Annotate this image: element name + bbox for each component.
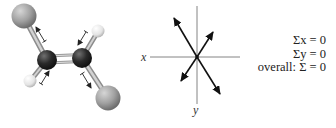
vector-diagram: x y: [140, 6, 240, 117]
atom-hydrogen-top-right: [92, 25, 105, 38]
equation-summary: Σx = 0 Σy = 0 overall: Σ = 0: [258, 34, 326, 75]
origin-point: [195, 55, 199, 59]
molecule-model: [12, 4, 121, 111]
atom-halogen-bottom-right: [96, 86, 121, 111]
atom-carbon-left: [37, 50, 57, 70]
equation-overall: overall: Σ = 0: [258, 61, 326, 75]
y-axis-label: y: [192, 103, 199, 117]
vector-down-right: [197, 57, 220, 94]
equation-sum-x: Σx = 0: [258, 34, 326, 48]
atom-carbon-right: [72, 48, 92, 68]
vector-down-left: [181, 57, 197, 81]
atom-halogen-top-left: [12, 4, 37, 29]
equation-sum-y: Σy = 0: [258, 48, 326, 62]
vector-up-left: [174, 18, 197, 57]
atom-hydrogen-bottom-left: [24, 75, 37, 88]
x-axis-label: x: [140, 50, 147, 64]
vector-up-right: [197, 32, 213, 57]
figure: x y Σx = 0 Σy = 0 overall: Σ = 0: [0, 0, 336, 128]
